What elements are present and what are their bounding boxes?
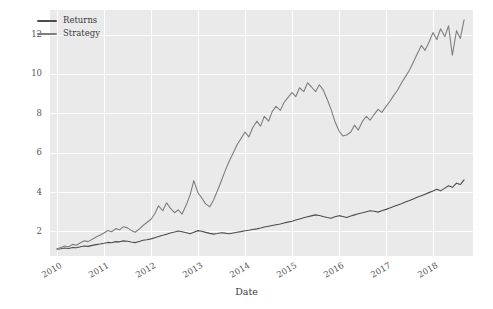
legend-swatch-strategy: [37, 33, 57, 35]
x-tick-2014: 2014: [225, 261, 252, 282]
legend-swatch-returns: [37, 20, 57, 22]
x-axis-label: Date: [0, 286, 493, 297]
y-tick-10: 10: [12, 69, 42, 78]
legend-label-returns: Returns: [63, 16, 97, 25]
series-lines: [50, 10, 473, 256]
legend-item-returns[interactable]: Returns: [37, 16, 100, 25]
x-tick-2015: 2015: [272, 261, 299, 282]
x-tick-2012: 2012: [131, 261, 158, 282]
series-line-strategy: [57, 20, 464, 249]
y-tick-2: 2: [12, 227, 42, 236]
legend-item-strategy[interactable]: Strategy: [37, 29, 100, 38]
x-tick-2011: 2011: [84, 261, 111, 282]
chart-legend: Returns Strategy: [33, 14, 104, 40]
series-line-returns: [57, 180, 464, 249]
x-tick-2013: 2013: [178, 261, 205, 282]
chart-figure: 24681012 2010201120122013201420152016201…: [0, 0, 493, 309]
y-tick-6: 6: [12, 148, 42, 157]
y-tick-8: 8: [12, 109, 42, 118]
x-tick-2018: 2018: [413, 261, 440, 282]
x-tick-2017: 2017: [366, 261, 393, 282]
x-tick-2016: 2016: [319, 261, 346, 282]
x-tick-2010: 2010: [37, 261, 64, 282]
plot-area: [50, 10, 473, 256]
legend-label-strategy: Strategy: [63, 29, 100, 38]
y-tick-4: 4: [12, 188, 42, 197]
